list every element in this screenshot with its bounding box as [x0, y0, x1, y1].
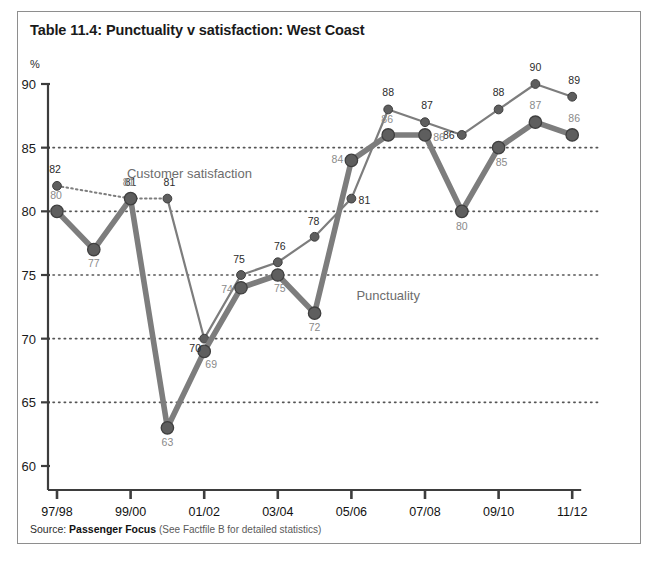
satisfaction-data-point	[457, 131, 466, 140]
satisfaction-value-label: 81	[359, 194, 371, 206]
satisfaction-value-label: 78	[308, 215, 320, 227]
punctuality-data-point	[235, 282, 247, 294]
satisfaction-line-segment	[535, 84, 572, 97]
satisfaction-value-label: 87	[421, 99, 433, 111]
punctuality-data-point	[272, 269, 284, 281]
series-annotation-label: Customer satisfaction	[127, 166, 252, 181]
punctuality-data-point	[308, 307, 320, 319]
punctuality-data-point	[456, 205, 468, 217]
source-extra-note: (See Factfile B for detailed statistics)	[159, 524, 321, 535]
punctuality-data-point	[529, 116, 541, 128]
punctuality-value-label: 86	[433, 131, 445, 143]
source-note: Source: Passenger Focus (See Factfile B …	[30, 523, 321, 535]
y-axis-tick-label: 70	[22, 332, 36, 347]
punctuality-value-label: 77	[88, 257, 100, 269]
punctuality-value-label: 86	[568, 112, 580, 124]
punctuality-value-label: 85	[496, 156, 508, 168]
screenshot-root: Table 11.4: Punctuality v satisfaction: …	[0, 0, 659, 563]
series-annotation-label: Punctuality	[356, 288, 420, 303]
punctuality-data-point	[419, 129, 431, 141]
punctuality-value-label: 75	[274, 282, 286, 294]
satisfaction-value-label: 88	[493, 86, 505, 98]
punctuality-data-point	[382, 129, 394, 141]
punctuality-value-label: 63	[162, 436, 174, 448]
y-axis-tick-label: 85	[22, 141, 36, 156]
satisfaction-data-point	[310, 232, 319, 241]
x-axis-tick-label: 05/06	[336, 505, 367, 519]
source-organisation: Passenger Focus	[69, 523, 156, 535]
punctuality-data-point	[51, 205, 63, 217]
satisfaction-line-segment	[462, 109, 499, 134]
punctuality-value-label: 84	[332, 153, 344, 165]
satisfaction-value-label: 89	[568, 74, 580, 86]
satisfaction-value-label: 70	[189, 342, 201, 354]
y-axis-tick-label: 75	[22, 268, 36, 283]
x-axis-tick-label: 99/00	[115, 505, 146, 519]
punctuality-data-point	[345, 154, 357, 166]
x-axis-tick-label: 01/02	[189, 505, 220, 519]
source-label: Source:	[30, 523, 66, 535]
satisfaction-value-label: 88	[382, 86, 394, 98]
satisfaction-data-point	[163, 194, 172, 203]
y-axis-tick-label: 80	[22, 204, 36, 219]
x-axis-tick-label: 03/04	[262, 505, 293, 519]
punctuality-value-label: 87	[530, 99, 542, 111]
punctuality-value-label: 72	[309, 321, 321, 333]
satisfaction-data-point	[531, 80, 540, 89]
satisfaction-data-point	[568, 92, 577, 101]
satisfaction-value-label: 90	[530, 61, 542, 73]
x-axis-tick-label: 11/12	[557, 505, 587, 519]
satisfaction-data-point	[421, 118, 430, 127]
satisfaction-line-segment	[167, 199, 204, 339]
x-axis-tick-label: 07/08	[409, 505, 440, 519]
punctuality-data-point	[492, 141, 504, 153]
satisfaction-value-label: 75	[233, 253, 245, 265]
satisfaction-data-point	[347, 194, 356, 203]
satisfaction-line-segment	[57, 186, 131, 199]
punctuality-value-label: 74	[221, 283, 233, 295]
y-axis-tick-label: 90	[22, 77, 36, 92]
satisfaction-data-point	[494, 105, 503, 114]
punctuality-value-label: 80	[50, 189, 62, 201]
x-axis-tick-label: 97/98	[41, 505, 72, 519]
punctuality-data-point	[124, 192, 136, 204]
punctuality-value-label: 69	[205, 358, 217, 370]
punctuality-data-point	[161, 422, 173, 434]
x-axis-tick-label: 09/10	[483, 505, 514, 519]
line-chart: 6065707580859097/9899/0001/0203/0405/060…	[0, 0, 659, 563]
satisfaction-value-label: 82	[49, 163, 61, 175]
punctuality-data-point	[88, 243, 100, 255]
punctuality-value-label: 80	[456, 220, 468, 232]
satisfaction-data-point	[237, 271, 246, 280]
y-axis-tick-label: 60	[22, 459, 36, 474]
y-axis-tick-label: 65	[22, 395, 36, 410]
punctuality-data-point	[566, 129, 578, 141]
punctuality-value-label: 86	[381, 113, 393, 125]
satisfaction-data-point	[273, 258, 282, 267]
satisfaction-value-label: 76	[274, 240, 286, 252]
satisfaction-line-segment	[388, 109, 425, 122]
